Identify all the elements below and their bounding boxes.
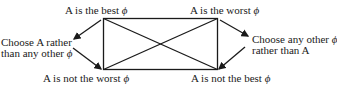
node-top-right: A is the worst ϕ bbox=[190, 5, 259, 16]
node-bottom-right: A is not the best ϕ bbox=[191, 73, 270, 84]
arrow-choose-a-to-not-worst bbox=[73, 48, 101, 69]
arrow-choose-other-to-not-best bbox=[219, 47, 245, 69]
node-bottom-left: A is not the worst ϕ bbox=[43, 73, 129, 84]
phi-symbol: ϕ bbox=[254, 4, 260, 16]
left-label-line2: than any other ϕ bbox=[1, 48, 72, 59]
arrow-best-to-choose-a bbox=[74, 20, 101, 39]
node-top-left: A is the best ϕ bbox=[65, 5, 128, 16]
phi-symbol: ϕ bbox=[67, 47, 73, 59]
phi-symbol: ϕ bbox=[122, 4, 128, 16]
arrow-worst-to-choose-other bbox=[220, 20, 248, 36]
phi-symbol: ϕ bbox=[332, 33, 337, 45]
phi-symbol: ϕ bbox=[265, 72, 271, 84]
phi-symbol: ϕ bbox=[123, 72, 129, 84]
right-label-line2: rather than A bbox=[252, 45, 309, 56]
